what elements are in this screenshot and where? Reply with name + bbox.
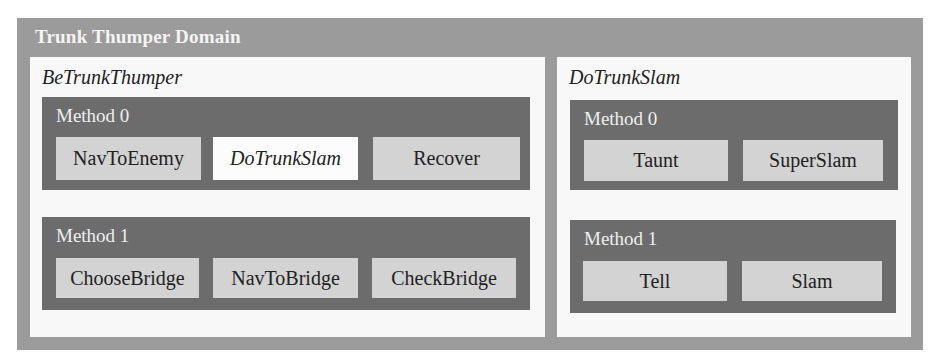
method-0: Method 0 NavToEnemy DoTrunkSlam Recover (42, 97, 530, 190)
task-recover: Recover (373, 137, 520, 180)
compound-task-do-trunk-slam: DoTrunkSlam Method 0 Taunt SuperSlam Met… (557, 57, 911, 337)
method-label: Method 0 (584, 102, 657, 136)
compound-task-be-trunk-thumper: BeTrunkThumper Method 0 NavToEnemy DoTru… (30, 57, 545, 337)
task-taunt: Taunt (584, 140, 728, 181)
method-1: Method 1 Tell Slam (570, 220, 896, 313)
task-choose-bridge: ChooseBridge (56, 258, 199, 298)
task-tell: Tell (583, 261, 727, 301)
task-check-bridge: CheckBridge (372, 258, 516, 298)
domain-title: Trunk Thumper Domain (35, 20, 241, 54)
task-slam: Slam (742, 261, 882, 301)
method-label: Method 1 (56, 219, 129, 253)
task-nav-to-bridge: NavToBridge (213, 258, 358, 298)
task-do-trunk-slam: DoTrunkSlam (213, 137, 358, 180)
task-nav-to-enemy: NavToEnemy (56, 137, 201, 180)
task-super-slam: SuperSlam (743, 140, 883, 181)
compound-title: DoTrunkSlam (569, 59, 680, 95)
domain-panel: Trunk Thumper Domain BeTrunkThumper Meth… (17, 18, 923, 350)
method-0: Method 0 Taunt SuperSlam (570, 100, 898, 190)
method-label: Method 0 (56, 99, 129, 133)
compound-title: BeTrunkThumper (42, 59, 182, 95)
method-label: Method 1 (584, 222, 657, 256)
method-1: Method 1 ChooseBridge NavToBridge CheckB… (42, 217, 530, 310)
